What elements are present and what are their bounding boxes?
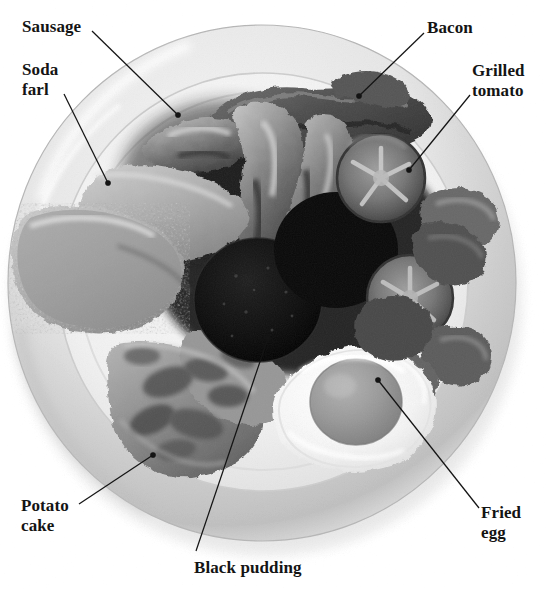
label-sausage: Sausage	[22, 17, 81, 37]
label-fried-egg: Fried egg	[481, 503, 521, 543]
grilled-tomato-upper	[337, 134, 425, 222]
labelled-photograph-figure: Sausage Soda farl Bacon Grilled tomato P…	[0, 0, 546, 589]
breakfast-plate-photograph	[0, 0, 546, 589]
label-black-pudding: Black pudding	[194, 558, 302, 578]
label-grilled-tomato: Grilled tomato	[472, 61, 525, 101]
label-potato-cake: Potato cake	[21, 496, 69, 536]
label-bacon: Bacon	[427, 18, 473, 38]
label-soda-farl: Soda farl	[22, 60, 58, 100]
